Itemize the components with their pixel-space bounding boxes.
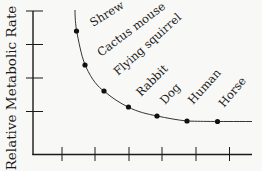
label-shrew: Shrew xyxy=(87,0,126,30)
y-axis-label: Relative Metabolic Rate xyxy=(3,6,19,171)
point-dog xyxy=(154,113,159,118)
point-human xyxy=(184,118,189,123)
point-horse xyxy=(215,119,220,124)
y-ticks xyxy=(26,11,43,112)
point-rabbit xyxy=(126,104,131,109)
label-horse: Horse xyxy=(216,74,249,110)
point-cactus-mouse xyxy=(82,62,87,67)
metabolic-rate-chart: Relative Metabolic Rate Shrew Cactus mou… xyxy=(0,0,262,171)
point-flying-squirrel xyxy=(101,88,106,93)
chart-canvas: Relative Metabolic Rate Shrew Cactus mou… xyxy=(0,0,262,171)
point-shrew xyxy=(74,28,79,33)
label-dog: Dog xyxy=(157,80,184,107)
